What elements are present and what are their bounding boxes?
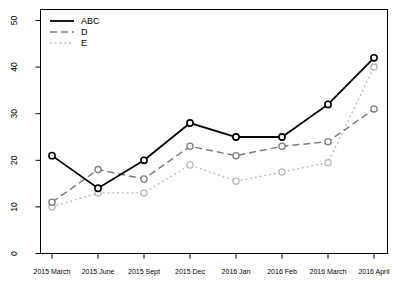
line-chart: 010203040502015 March2015 June2015 Sept2… xyxy=(0,0,399,304)
x-tick-label: 2016 March xyxy=(310,268,347,275)
y-tick-label: 40 xyxy=(9,62,19,72)
data-point xyxy=(187,162,193,168)
x-axis: 2015 March2015 June2015 Sept2015 Dec2016… xyxy=(34,254,390,276)
data-point xyxy=(371,106,377,112)
data-point xyxy=(279,143,285,149)
y-tick-label: 20 xyxy=(9,155,19,165)
x-tick-label: 2016 April xyxy=(358,268,390,276)
data-point xyxy=(141,157,147,163)
y-tick-label: 30 xyxy=(9,109,19,119)
data-point xyxy=(49,199,55,205)
x-tick-label: 2015 June xyxy=(82,268,115,275)
legend-label: D xyxy=(81,27,88,37)
r-plot-figure: 010203040502015 March2015 June2015 Sept2… xyxy=(0,0,399,304)
x-tick-label: 2016 Jan xyxy=(222,268,251,275)
y-axis: 01020304050 xyxy=(9,16,41,256)
data-point xyxy=(233,178,239,184)
x-tick-label: 2015 March xyxy=(34,268,71,275)
data-point xyxy=(141,190,147,196)
data-point xyxy=(187,143,193,149)
data-point xyxy=(371,64,377,70)
legend-label: ABC xyxy=(81,16,100,26)
legend: ABCDE xyxy=(50,16,100,48)
x-tick-label: 2016 Feb xyxy=(267,268,297,275)
data-point xyxy=(279,169,285,175)
plot-box xyxy=(41,10,388,254)
legend-label: E xyxy=(81,38,87,48)
y-tick-label: 50 xyxy=(9,16,19,26)
y-tick-label: 0 xyxy=(9,251,19,256)
data-point xyxy=(279,134,285,140)
data-point xyxy=(187,120,193,126)
x-tick-label: 2015 Sept xyxy=(128,268,160,276)
data-point xyxy=(141,176,147,182)
data-point xyxy=(95,167,101,173)
data-point xyxy=(233,134,239,140)
data-point xyxy=(49,153,55,159)
x-tick-label: 2015 Dec xyxy=(175,268,205,275)
data-point xyxy=(233,153,239,159)
data-point xyxy=(325,160,331,166)
data-point xyxy=(371,55,377,61)
data-point xyxy=(325,101,331,107)
data-point xyxy=(325,139,331,145)
data-point xyxy=(95,185,101,191)
y-tick-label: 10 xyxy=(9,202,19,212)
